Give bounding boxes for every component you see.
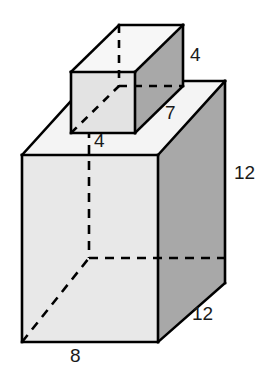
dimension-label-large-height: 12 <box>234 163 255 182</box>
dimension-label-large-width: 8 <box>70 346 81 365</box>
dimension-label-small-height: 4 <box>190 45 201 64</box>
prisms-diagram <box>0 0 267 380</box>
figure-container: 4 7 4 12 12 8 <box>0 0 267 380</box>
dimension-label-small-depth: 7 <box>165 103 176 122</box>
dimension-label-large-depth: 12 <box>192 304 213 323</box>
small-prism-front-face <box>71 72 135 133</box>
dimension-label-small-width: 4 <box>94 131 105 150</box>
